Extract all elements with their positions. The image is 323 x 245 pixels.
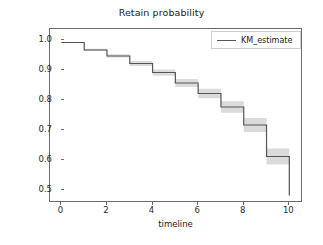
figure-canvas: Retain probability 0.50.60.70.80.91.0 02…: [0, 0, 323, 245]
x-tick-mark: [152, 202, 153, 205]
x-tick-label: 10: [278, 205, 298, 215]
x-tick-label: 6: [187, 205, 207, 215]
legend-line-swatch: [217, 40, 236, 41]
x-tick-label: 2: [96, 205, 116, 215]
x-tick-label: 4: [142, 205, 162, 215]
x-tick-mark: [288, 202, 289, 205]
x-tick-mark: [243, 202, 244, 205]
x-tick-mark: [197, 202, 198, 205]
x-tick-label: 0: [50, 205, 70, 215]
x-tick-mark: [60, 202, 61, 205]
legend-entry-label: KM_estimate: [241, 36, 292, 45]
x-tick-label: 8: [233, 205, 253, 215]
x-tick-mark: [106, 202, 107, 205]
legend-box: KM_estimate: [211, 31, 301, 49]
x-axis-label: timeline: [49, 219, 302, 229]
